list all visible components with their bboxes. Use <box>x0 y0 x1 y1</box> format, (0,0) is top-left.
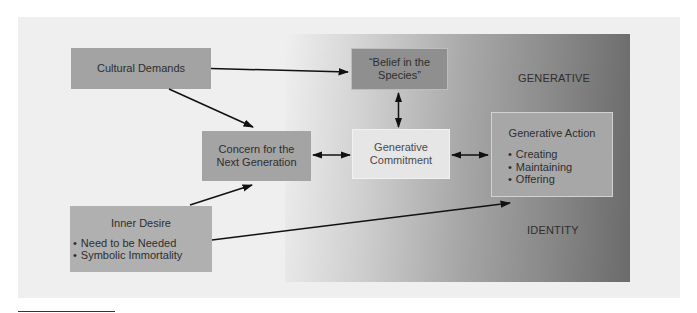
arrow-cultural-to-concern <box>169 89 253 127</box>
footnote-rule <box>18 311 115 312</box>
arrows-layer <box>0 0 697 313</box>
arrow-inner-to-concern <box>190 185 252 205</box>
arrow-cultural-to-belief <box>211 69 348 73</box>
arrow-inner-to-action <box>212 203 510 240</box>
